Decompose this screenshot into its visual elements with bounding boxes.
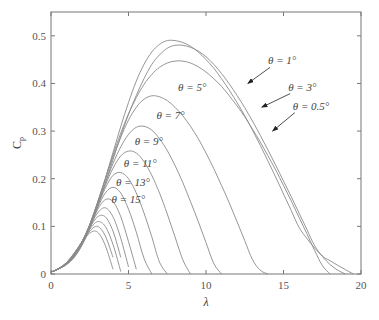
annotation-label: θ = 9° xyxy=(135,135,164,147)
curve-theta-21 xyxy=(51,222,121,273)
annotation-label: θ = 13° xyxy=(116,176,150,188)
annotation-label: θ = 5° xyxy=(178,81,207,93)
annotation-label: θ = 11° xyxy=(124,157,158,169)
x-tick-label: 0 xyxy=(48,279,54,291)
curve-theta-15 xyxy=(51,199,136,272)
x-tick-label: 5 xyxy=(126,279,132,291)
annotation-label: θ = 1° xyxy=(268,54,297,66)
curve-theta-5 xyxy=(51,96,268,274)
x-tick-label: 15 xyxy=(278,279,290,291)
annotation-arrow xyxy=(248,67,270,83)
annotation-arrow xyxy=(262,94,290,108)
annotation-label: θ = 3° xyxy=(288,81,317,93)
curve-theta-19 xyxy=(51,215,121,272)
cp-lambda-chart: 0510152000.10.20.30.40.5 θ = 1°θ = 3°θ =… xyxy=(0,0,379,320)
x-tick-label: 20 xyxy=(356,279,368,291)
y-tick-label: 0.3 xyxy=(32,125,46,137)
curve-theta-1 xyxy=(51,40,346,274)
y-axis-label: Cp xyxy=(10,137,26,149)
annotation-label: θ = 15° xyxy=(111,193,145,205)
y-tick-label: 0.2 xyxy=(32,173,46,185)
curve-theta-25 xyxy=(51,231,113,272)
annotation-label: θ = 0.5° xyxy=(293,100,330,112)
curve-theta-3 xyxy=(51,61,330,274)
x-axis-label: λ xyxy=(202,295,208,309)
y-tick-label: 0 xyxy=(41,268,47,280)
curve-theta-23 xyxy=(51,226,113,272)
curve-group xyxy=(51,40,353,274)
y-tick-label: 0.5 xyxy=(32,30,46,42)
y-tick-label: 0.4 xyxy=(32,77,46,89)
curve-theta-17 xyxy=(51,208,129,272)
plot-frame xyxy=(51,12,361,274)
annotation-arrow xyxy=(273,113,295,131)
annotation-label: θ = 7° xyxy=(156,109,185,121)
y-tick-label: 0.1 xyxy=(32,220,46,232)
x-tick-label: 10 xyxy=(201,279,213,291)
